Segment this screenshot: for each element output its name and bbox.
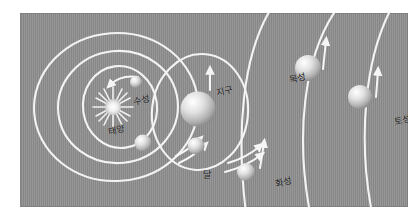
jupiter-body (295, 55, 321, 81)
solar-system-panel: 태양 수성 지구 달 화성 목성 토성 (20, 13, 408, 207)
solar-system-diagram (20, 13, 408, 207)
mars-body (237, 163, 255, 181)
jupiter-orbit (303, 13, 338, 207)
venus-body (135, 135, 152, 152)
earth-body (181, 92, 216, 127)
diagram-svg-wrapper (20, 13, 408, 207)
moon-body (188, 138, 205, 155)
figure-canvas: 태양 수성 지구 달 화성 목성 토성 (0, 0, 418, 222)
saturn-direction-arrow (376, 71, 378, 97)
moon-direction-arrow (228, 146, 260, 163)
sun-body (93, 87, 133, 127)
jupiter-direction-arrow (323, 41, 326, 69)
saturn-orbit (365, 13, 392, 207)
mercury-body (130, 76, 142, 88)
saturn-body (348, 85, 372, 109)
